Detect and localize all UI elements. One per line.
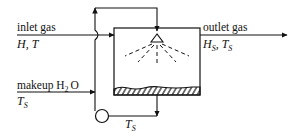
spray-nozzle-icon [151,34,163,42]
makeup-water-label: makeup H2O [17,79,79,96]
outlet-humidity: H [203,37,212,51]
subscript: S [132,124,136,133]
makeup-T: T [17,94,24,108]
recycle-temperature: TS [125,118,136,135]
subscript: S [24,101,28,110]
inlet-gas-state: H, T [17,38,38,50]
makeup-text: makeup H [17,79,65,91]
makeup-tail: O [71,79,79,91]
outlet-gas-label: outlet gas [203,21,247,33]
outlet-gas-state: HS, TS [203,38,232,55]
pump-icon [96,110,109,123]
subscript: 2 [65,85,69,94]
recirculation-line [95,8,157,116]
subscript: S [228,44,232,53]
inlet-gas-label: inlet gas [17,21,56,33]
recycle-T: T [125,117,132,131]
inlet-humidity: H [17,37,26,51]
water-pool [114,87,200,95]
makeup-temperature: TS [17,95,28,112]
spray-pattern [125,44,189,64]
inlet-temperature: T [32,37,39,51]
